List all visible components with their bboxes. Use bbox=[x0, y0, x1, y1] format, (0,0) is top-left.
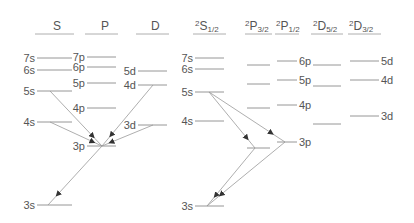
right-column-header-4: 2D3/2 bbox=[349, 19, 374, 34]
level-label-4s: 4s bbox=[181, 115, 193, 127]
right-column-header-1: 2P3/2 bbox=[245, 19, 269, 34]
level-label-4p: 4p bbox=[73, 102, 85, 114]
level-label-4d: 4d bbox=[124, 79, 136, 91]
level-label-4s: 4s bbox=[23, 116, 35, 128]
level-label-3d: 3d bbox=[381, 110, 393, 122]
level-label-5d: 5d bbox=[381, 55, 393, 67]
level-label-5s: 5s bbox=[181, 86, 193, 98]
level-label-6p: 6p bbox=[299, 55, 311, 67]
level-label-3d: 3d bbox=[124, 119, 136, 131]
transition-line bbox=[209, 92, 255, 148]
level-label-4d: 4d bbox=[381, 74, 393, 86]
arrow-icon bbox=[111, 134, 112, 135]
left-column-header-2: D bbox=[151, 19, 160, 33]
level-label-5p: 5p bbox=[73, 77, 85, 89]
left-column-header-0: S bbox=[53, 19, 61, 33]
level-label-5s: 5s bbox=[23, 85, 35, 97]
transition-line bbox=[102, 85, 153, 146]
left-column-header-1: P bbox=[101, 19, 109, 33]
right-column-header-0: 2S1/2 bbox=[195, 19, 219, 34]
transition-line bbox=[48, 146, 102, 205]
arrow-icon bbox=[221, 194, 222, 195]
level-label-3s: 3s bbox=[181, 200, 193, 212]
right-panel-fine-structure: 2S1/22P3/22P1/22D5/22D3/27s6s5s4s3s6p5p4… bbox=[181, 19, 393, 212]
transition-line bbox=[207, 148, 255, 206]
level-label-3p: 3p bbox=[299, 136, 311, 148]
transition-line bbox=[209, 92, 285, 142]
level-label-4p: 4p bbox=[299, 99, 311, 111]
level-label-7s: 7s bbox=[23, 52, 35, 64]
level-label-3s: 3s bbox=[23, 199, 35, 211]
level-label-5d: 5d bbox=[124, 65, 136, 77]
transition-line bbox=[50, 91, 102, 146]
energy-level-diagram: SPD7s6s5s4s3s7p6p5p4p3p5d4d3d 2S1/22P3/2… bbox=[0, 0, 414, 223]
level-label-6s: 6s bbox=[181, 63, 193, 75]
level-label-3p: 3p bbox=[73, 140, 85, 152]
level-label-5p: 5p bbox=[299, 74, 311, 86]
level-label-6p: 6p bbox=[73, 61, 85, 73]
arrow-icon bbox=[92, 136, 93, 137]
arrow-icon bbox=[271, 133, 272, 134]
arrow-icon bbox=[58, 194, 59, 195]
transition-line bbox=[207, 142, 285, 206]
right-column-header-3: 2D5/2 bbox=[313, 19, 338, 34]
right-column-header-2: 2P1/2 bbox=[276, 19, 300, 34]
left-panel-gross-structure: SPD7s6s5s4s3s7p6p5p4p3p5d4d3d bbox=[23, 19, 169, 211]
level-label-6s: 6s bbox=[23, 64, 35, 76]
